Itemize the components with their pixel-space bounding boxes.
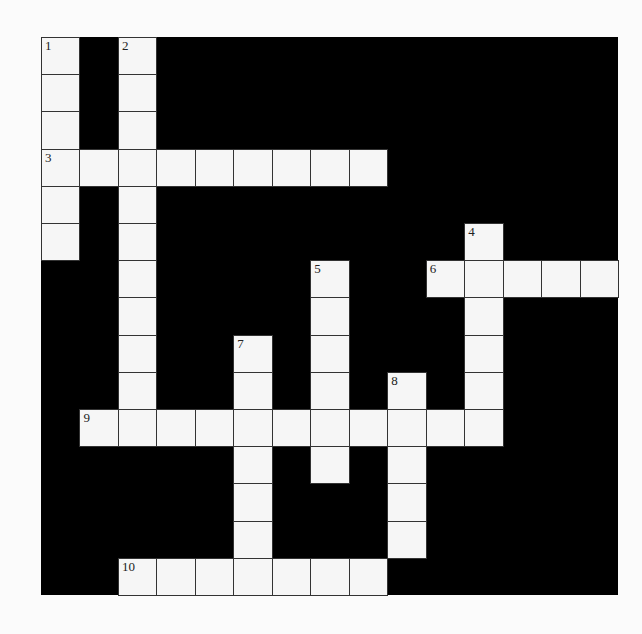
crossword-cell[interactable] (118, 186, 157, 224)
crossword-cell[interactable] (310, 149, 349, 187)
clue-number: 9 (83, 411, 90, 424)
crossword-cell[interactable] (503, 260, 542, 298)
crossword-cell[interactable]: 1 (41, 37, 80, 75)
crossword-cell[interactable]: 3 (41, 149, 80, 187)
crossword-cell[interactable] (79, 149, 118, 187)
crossword-cell[interactable] (156, 558, 195, 596)
crossword-cell[interactable] (118, 372, 157, 410)
crossword-cell[interactable]: 9 (79, 409, 118, 447)
crossword-cell[interactable] (349, 409, 388, 447)
crossword-grid: 13245678910 (41, 37, 618, 595)
crossword-cell[interactable] (233, 521, 272, 559)
crossword-cell[interactable]: 6 (426, 260, 465, 298)
crossword-cell[interactable] (41, 186, 80, 224)
clue-number: 2 (122, 39, 129, 52)
clue-number: 3 (45, 151, 52, 164)
crossword-cell[interactable]: 4 (464, 223, 503, 261)
crossword-cell[interactable] (41, 223, 80, 261)
crossword-cell[interactable] (310, 297, 349, 335)
crossword-cell[interactable] (41, 111, 80, 149)
crossword-cell[interactable] (349, 149, 388, 187)
clue-number: 1 (45, 39, 52, 52)
crossword-cell[interactable] (272, 149, 311, 187)
crossword-cell[interactable] (464, 260, 503, 298)
crossword-cell[interactable] (464, 297, 503, 335)
crossword-cell[interactable] (272, 558, 311, 596)
crossword-cell[interactable] (464, 409, 503, 447)
clue-number: 6 (430, 262, 437, 275)
crossword-cell[interactable]: 2 (118, 37, 157, 75)
crossword-cell[interactable] (41, 74, 80, 112)
crossword-cell[interactable] (233, 372, 272, 410)
crossword-cell[interactable] (118, 223, 157, 261)
clue-number: 4 (468, 225, 475, 238)
crossword-cell[interactable] (310, 372, 349, 410)
crossword-cell[interactable] (387, 409, 426, 447)
crossword-cell[interactable] (541, 260, 580, 298)
clue-number: 10 (122, 560, 135, 573)
crossword-cell[interactable] (118, 409, 157, 447)
crossword-cell[interactable] (156, 409, 195, 447)
crossword-cell[interactable]: 10 (118, 558, 157, 596)
crossword-cell[interactable] (310, 335, 349, 373)
crossword-cell[interactable] (464, 372, 503, 410)
crossword-cell[interactable] (387, 521, 426, 559)
crossword-cell[interactable] (464, 335, 503, 373)
crossword-cell[interactable] (349, 558, 388, 596)
crossword-cell[interactable] (156, 149, 195, 187)
crossword-cell[interactable] (118, 260, 157, 298)
crossword-cell[interactable] (233, 558, 272, 596)
crossword-cell[interactable] (118, 111, 157, 149)
crossword-cell[interactable] (195, 558, 234, 596)
crossword-cell[interactable] (118, 74, 157, 112)
crossword-cell[interactable] (233, 446, 272, 484)
crossword-cell[interactable] (233, 409, 272, 447)
crossword-cell[interactable]: 7 (233, 335, 272, 373)
crossword-cell[interactable] (387, 446, 426, 484)
crossword-cell[interactable] (195, 149, 234, 187)
crossword-cell[interactable] (118, 335, 157, 373)
crossword-cell[interactable] (118, 297, 157, 335)
crossword-cell[interactable] (195, 409, 234, 447)
crossword-cell[interactable] (233, 149, 272, 187)
crossword-cell[interactable] (426, 409, 465, 447)
clue-number: 5 (314, 262, 321, 275)
crossword-cell[interactable] (233, 483, 272, 521)
crossword-cell[interactable] (310, 558, 349, 596)
crossword-cell[interactable] (580, 260, 619, 298)
crossword-cell[interactable] (310, 446, 349, 484)
crossword-cell[interactable] (272, 409, 311, 447)
clue-number: 7 (237, 337, 244, 350)
crossword-cell[interactable] (387, 483, 426, 521)
crossword-cell[interactable] (118, 149, 157, 187)
crossword-cell[interactable] (310, 409, 349, 447)
clue-number: 8 (391, 374, 398, 387)
crossword-cell[interactable]: 8 (387, 372, 426, 410)
crossword-cell[interactable]: 5 (310, 260, 349, 298)
